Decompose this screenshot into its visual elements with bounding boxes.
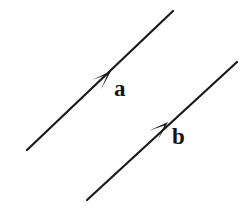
vector-canvas bbox=[0, 0, 242, 208]
vector-b-label: b bbox=[172, 125, 185, 148]
vector-a-label: a bbox=[114, 77, 126, 100]
background-rect bbox=[0, 0, 242, 208]
vector-diagram: a b bbox=[0, 0, 242, 208]
